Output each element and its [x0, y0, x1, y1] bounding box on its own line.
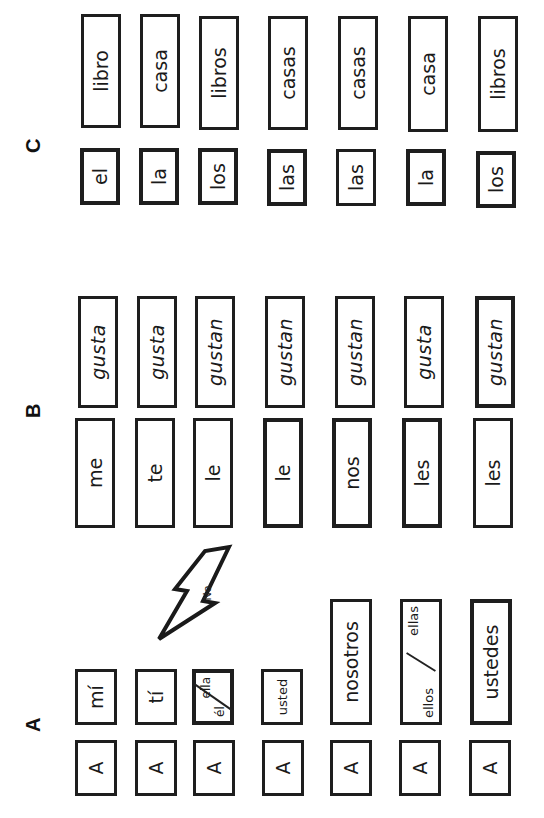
indirect-object-card[interactable]: les [402, 418, 442, 528]
card-text: libros [487, 48, 509, 100]
card-text: ustedes [480, 625, 502, 700]
card-text: la [415, 169, 437, 186]
pronoun-card-ellos-ellas[interactable]: ellos ellas [400, 599, 442, 725]
noun-card[interactable]: casa [140, 14, 180, 128]
card-text: gusta [413, 324, 435, 380]
card-text: gustan [204, 318, 226, 386]
verb-card[interactable]: gustan [195, 296, 235, 408]
prep-card[interactable]: A [135, 740, 177, 796]
prep-card[interactable]: A [469, 740, 511, 796]
article-card[interactable]: las [267, 149, 307, 206]
noun-card[interactable]: casas [338, 16, 378, 130]
card-text: te [144, 463, 166, 482]
card-text-el: él [213, 706, 227, 717]
card-text-ellos: ellos [421, 688, 436, 718]
indirect-object-card[interactable]: te [135, 418, 175, 528]
indirect-object-card[interactable]: les [473, 418, 513, 528]
card-text: A [203, 762, 225, 775]
indirect-object-card[interactable]: nos [332, 418, 372, 528]
article-card[interactable]: las [336, 149, 376, 206]
card-text: libros [208, 47, 230, 99]
card-text: casa [417, 52, 439, 96]
card-text: mí [85, 685, 107, 709]
card-text: tí [145, 691, 167, 704]
verb-card[interactable]: gusta [404, 296, 444, 408]
card-text: gustan [274, 318, 296, 386]
prep-card[interactable]: A [399, 740, 441, 796]
article-card[interactable]: los [198, 148, 238, 205]
article-card[interactable]: la [139, 148, 179, 205]
indirect-object-card[interactable]: me [75, 418, 115, 528]
card-text: los [207, 163, 229, 190]
card-text: A [145, 762, 167, 775]
verb-card[interactable]: gusta [137, 296, 177, 408]
card-text: me [84, 458, 106, 488]
card-text: gusta [146, 324, 168, 380]
pronoun-card[interactable]: nosotros [330, 599, 372, 725]
card-text: libro [90, 50, 112, 92]
callout-text: No [201, 585, 214, 600]
noun-card[interactable]: casa [408, 16, 448, 132]
card-text: casa [149, 49, 171, 93]
verb-card[interactable]: gusta [78, 296, 118, 408]
indirect-object-card[interactable]: le [193, 418, 233, 528]
card-text: A [479, 762, 501, 775]
card-text-ellas: ellas [406, 606, 421, 636]
card-text: el [89, 168, 111, 185]
verb-card[interactable]: gustan [475, 296, 515, 408]
divider-slash [406, 652, 436, 672]
pronoun-card[interactable]: tí [135, 669, 177, 725]
article-card[interactable]: los [476, 151, 516, 208]
card-text: casas [347, 46, 369, 100]
noun-card[interactable]: libros [199, 16, 239, 130]
card-text: casas [277, 46, 299, 100]
card-text: las [345, 164, 367, 191]
card-text: gusta [87, 324, 109, 380]
card-text: A [85, 762, 107, 775]
article-card[interactable]: la [406, 149, 446, 206]
noun-card[interactable]: libro [81, 14, 121, 128]
card-text: gustan [344, 318, 366, 386]
verb-card[interactable]: gustan [335, 296, 375, 408]
card-text: le [202, 465, 224, 482]
pronoun-card[interactable]: ustedes [470, 599, 512, 725]
pronoun-card[interactable]: mí [75, 669, 117, 725]
indirect-object-card[interactable]: le [263, 418, 303, 528]
no-lightning-bolt-icon: No [155, 533, 255, 653]
card-text: la [148, 168, 170, 185]
pronoun-card[interactable]: usted [261, 669, 303, 725]
pronoun-card-el-ella[interactable]: él ella [192, 669, 234, 725]
section-label-a: A [22, 718, 45, 732]
card-text: A [272, 762, 294, 775]
section-label-c: C [22, 139, 45, 153]
card-text: A [409, 762, 431, 775]
card-text: le [272, 465, 294, 482]
card-text: les [482, 460, 504, 487]
card-text: A [340, 762, 362, 775]
card-text: usted [275, 679, 290, 715]
card-text: gustan [484, 318, 506, 386]
noun-card[interactable]: libros [478, 16, 518, 132]
prep-card[interactable]: A [262, 740, 304, 796]
card-text: nos [341, 456, 363, 490]
card-text: les [411, 460, 433, 487]
section-label-b: B [22, 404, 45, 418]
worksheet-page: A B C No A mí me gusta el libro A tí te … [0, 0, 544, 818]
card-text: las [276, 164, 298, 191]
article-card[interactable]: el [80, 148, 120, 205]
prep-card[interactable]: A [75, 740, 117, 796]
card-text-ella: ella [199, 677, 213, 698]
noun-card[interactable]: casas [268, 16, 308, 130]
card-text: nosotros [340, 621, 362, 703]
prep-card[interactable]: A [330, 740, 372, 796]
card-text: los [485, 166, 507, 193]
verb-card[interactable]: gustan [265, 296, 305, 408]
prep-card[interactable]: A [193, 740, 235, 796]
